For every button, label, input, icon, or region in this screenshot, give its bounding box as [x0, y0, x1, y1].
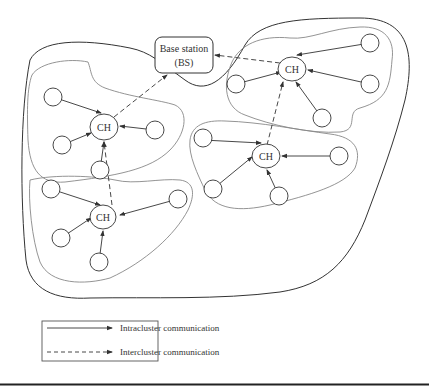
sensor-node — [227, 75, 245, 93]
sensor-node — [52, 229, 70, 247]
sensor-node — [313, 109, 331, 127]
sensor-node — [42, 180, 60, 198]
sensor-node — [361, 34, 379, 52]
cluster-head-left: CH — [90, 114, 118, 140]
sensor-node — [330, 147, 348, 165]
sensor-node — [361, 75, 379, 93]
sensor-node — [44, 88, 62, 106]
sensor-node — [91, 161, 109, 179]
cluster-head-bottom-left: CH — [90, 205, 116, 229]
base-station-abbrev: (BS) — [175, 57, 194, 69]
cluster-head-label: CH — [96, 212, 110, 223]
cluster-head-middle-right: CH — [252, 144, 280, 168]
intracluster-links — [51, 43, 370, 262]
base-station-node: Base station (BS) — [155, 37, 213, 73]
base-station-label: Base station — [160, 43, 209, 54]
sensor-node — [169, 190, 187, 208]
sensor-node — [194, 129, 212, 147]
sensor-node — [90, 253, 108, 271]
sensor-node — [204, 180, 222, 198]
legend-intracluster-label: Intracluster communication — [120, 323, 220, 333]
cluster-network-diagram: Base station (BS) — [0, 0, 429, 387]
cluster-head-top-right: CH — [278, 57, 306, 81]
cluster-head-label: CH — [259, 151, 273, 162]
sensor-node — [53, 136, 71, 154]
legend-intercluster-label: Intercluster communication — [120, 347, 220, 357]
sensor-node — [270, 187, 288, 205]
cluster-head-label: CH — [97, 122, 111, 133]
network-boundary — [22, 18, 409, 298]
legend: Intracluster communication Intercluster … — [42, 321, 220, 361]
cluster-head-label: CH — [285, 64, 299, 75]
sensor-node — [146, 121, 164, 139]
